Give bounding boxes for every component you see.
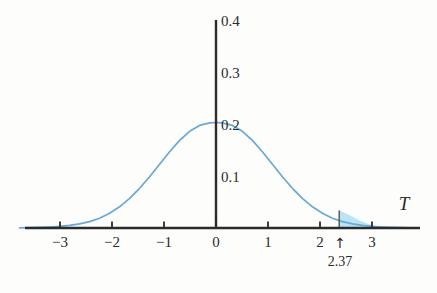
y-tick-label-02: 0.2: [221, 117, 240, 133]
x-tick-label-0: 0: [212, 234, 220, 250]
critical-value-label: 2.37: [328, 254, 353, 269]
x-tick-label-3: 3: [368, 234, 376, 250]
x-axis-title: T: [399, 193, 411, 214]
y-tick-label-04: 0.4: [221, 13, 240, 29]
y-tick-label-03: 0.3: [221, 65, 240, 81]
y-tick-label-01: 0.1: [221, 169, 240, 185]
x-tick-label-1: 1: [264, 234, 272, 250]
up-arrow-icon: ↑: [334, 235, 346, 251]
x-tick-label-neg2: −2: [104, 234, 120, 250]
x-tick-label-neg3: −3: [52, 234, 68, 250]
chart-figure: −3 −2 −1 0 1 2 3 0.4 0.3 0.2 0.1 T ↑ 2.3…: [0, 0, 437, 293]
distribution-plot: −3 −2 −1 0 1 2 3 0.4 0.3 0.2 0.1 T ↑ 2.3…: [0, 0, 437, 293]
x-tick-label-neg1: −1: [156, 234, 172, 250]
x-tick-label-2: 2: [316, 234, 324, 250]
